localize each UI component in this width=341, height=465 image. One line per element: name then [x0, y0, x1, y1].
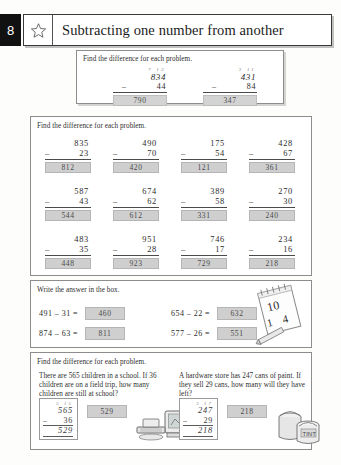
grid-problem: 746 – 17 729: [181, 235, 227, 269]
grid-problem: 389 – 58 331: [181, 187, 227, 221]
subtrahend: 58: [215, 197, 225, 206]
minuend: 175: [181, 139, 227, 149]
answer-box[interactable]: 218: [249, 258, 295, 270]
word-problem-work: 5 15 565 – 36 529 529: [39, 398, 127, 440]
operator: –: [249, 245, 254, 255]
answer-box[interactable]: 331: [181, 210, 227, 222]
answer-box[interactable]: 923: [113, 258, 159, 270]
problem-grid-panel: Find the difference for each problem. 83…: [30, 116, 312, 276]
word-instruction: Find the difference for each problem.: [37, 358, 146, 366]
grid-problem: 483 – 35 448: [45, 235, 91, 269]
answer-box[interactable]: 420: [113, 162, 159, 174]
worksheet-page: 8 Subtracting one number from another Fi…: [0, 0, 341, 465]
answer-box[interactable]: 811: [85, 327, 125, 340]
subtrahend: 35: [79, 245, 89, 254]
word-problem-work: 3 17 247 – 29 218 218: [179, 398, 267, 440]
subtrahend: 36: [63, 416, 73, 425]
minuend: 565: [43, 406, 73, 416]
subtrahend: 70: [147, 149, 157, 158]
page-number-badge: 8: [0, 14, 21, 46]
title-banner: Subtracting one number from another: [23, 14, 332, 46]
subtrahend-line: – 84: [203, 82, 257, 93]
minuend: 834: [113, 72, 167, 82]
subtrahend-line: – 67: [249, 149, 295, 161]
write-answer-panel: Write the answer in the box. 491 – 31 = …: [30, 280, 312, 348]
paint-cans-icon: TINT: [275, 405, 323, 447]
minuend: 835: [45, 139, 91, 149]
operator: –: [45, 149, 50, 159]
operator: –: [181, 197, 186, 207]
answer-box[interactable]: 812: [45, 162, 91, 174]
word-problem-panel: Find the difference for each problem. Th…: [30, 352, 312, 450]
subtrahend-line: – 58: [181, 197, 227, 209]
subtrahend-line: – 35: [45, 245, 91, 257]
grid-problem: 835 – 23 812: [45, 139, 91, 173]
minuend: 490: [113, 139, 159, 149]
operator: –: [45, 197, 50, 207]
equation-expression: 654 – 22 =: [171, 309, 210, 318]
subtrahend: 29: [203, 416, 213, 425]
grid-problem: 674 – 62 612: [113, 187, 159, 221]
answer-box[interactable]: 347: [203, 95, 257, 106]
operator: –: [45, 245, 50, 255]
subtrahend-line: – 70: [113, 149, 159, 161]
grid-problem: 587 – 43 544: [45, 187, 91, 221]
operator: –: [113, 245, 118, 255]
answer-box[interactable]: 121: [181, 162, 227, 174]
answer-box[interactable]: 544: [45, 210, 91, 222]
equation-expression: 874 – 63 =: [39, 329, 78, 338]
operator: –: [181, 149, 186, 159]
answer-box[interactable]: 448: [45, 258, 91, 270]
operator: –: [113, 82, 127, 91]
minuend: 587: [45, 187, 91, 197]
minuend: 234: [249, 235, 295, 245]
subtrahend-line: – 44: [113, 82, 167, 93]
answer-box[interactable]: 240: [249, 210, 295, 222]
answer-box[interactable]: 729: [181, 258, 227, 270]
word-problem: There are 565 children in a school. If 3…: [39, 372, 167, 400]
equation-row: 874 – 63 = 811: [39, 327, 125, 340]
answer-box[interactable]: 218: [227, 405, 267, 418]
word-problem-text: A hardware store has 247 cans of paint. …: [179, 372, 307, 400]
subtrahend-line: – 62: [113, 197, 159, 209]
minuend: 674: [113, 187, 159, 197]
work-result: 529: [43, 426, 73, 437]
grid-instruction: Find the difference for each problem.: [37, 122, 146, 130]
minuend: 247: [183, 406, 213, 416]
subtrahend: 23: [79, 149, 89, 158]
equation-row: 577 – 26 = 551: [171, 327, 257, 340]
subtrahend: 54: [215, 149, 225, 158]
operator: –: [113, 149, 118, 159]
answer-box[interactable]: 612: [113, 210, 159, 222]
example-panel: Find the difference for each problem. 7 …: [76, 50, 284, 104]
subtrahend: 43: [79, 197, 89, 206]
worksheet-header: 8 Subtracting one number from another: [0, 14, 341, 46]
subtrahend-line: – 36: [43, 416, 73, 427]
minuend: 389: [181, 187, 227, 197]
subtrahend-line: – 29: [183, 416, 213, 427]
operator: –: [183, 416, 188, 426]
vertical-subtraction: 5 15 565 – 36 529: [39, 398, 78, 440]
subtrahend-line: – 23: [45, 149, 91, 161]
subtrahend: 44: [157, 82, 166, 91]
operator: –: [113, 197, 118, 207]
subtrahend-line: – 54: [181, 149, 227, 161]
subtrahend: 30: [283, 197, 293, 206]
operator: –: [181, 245, 186, 255]
subtrahend: 62: [147, 197, 157, 206]
subtrahend-line: – 30: [249, 197, 295, 209]
word-problem-text: There are 565 children in a school. If 3…: [39, 372, 167, 400]
page-title: Subtracting one number from another: [53, 22, 284, 39]
grid-problem: 270 – 30 240: [249, 187, 295, 221]
grid-problem: 490 – 70 420: [113, 139, 159, 173]
answer-box[interactable]: 460: [85, 307, 125, 320]
subtrahend: 16: [283, 245, 293, 254]
operator: –: [203, 82, 217, 91]
answer-box[interactable]: 790: [113, 95, 167, 106]
answer-box[interactable]: 529: [87, 405, 127, 418]
minuend: 483: [45, 235, 91, 245]
minuend: 428: [249, 139, 295, 149]
star-outline-icon: [24, 15, 53, 45]
answer-box[interactable]: 361: [249, 162, 295, 174]
equation-expression: 577 – 26 =: [171, 329, 210, 338]
